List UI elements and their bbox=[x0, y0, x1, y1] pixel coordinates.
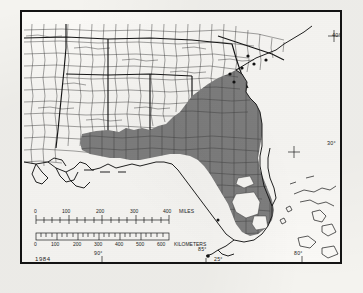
longitude-label-80: 80° bbox=[294, 250, 303, 256]
latitude-label-30: 30° bbox=[327, 140, 336, 146]
map-plate: 40° 30° 90° 85° 80° 25° 0 100 200 300 40… bbox=[22, 12, 340, 262]
scale-miles-graphic bbox=[35, 215, 195, 224]
map-frame: 40° 30° 90° 85° 80° 25° 0 100 200 300 40… bbox=[20, 10, 342, 264]
scale-kilometers-graphic bbox=[35, 232, 195, 241]
island-outlines bbox=[280, 176, 338, 258]
paper-background: 40° 30° 90° 85° 80° 25° 0 100 200 300 40… bbox=[0, 0, 363, 293]
latitude-label-25: 25° bbox=[214, 256, 223, 262]
map-drawing bbox=[22, 12, 340, 262]
shaded-distribution-area bbox=[22, 12, 340, 262]
scale-bar-miles: 0 100 200 300 400 MILES bbox=[34, 208, 194, 222]
latitude-label-40: 40° bbox=[332, 32, 340, 38]
longitude-label-90: 90° bbox=[94, 250, 103, 256]
scale-bar-kilometers: 0 100 200 300 400 500 600 KILOMETERS bbox=[34, 232, 194, 246]
year-label: 1984 bbox=[35, 256, 51, 262]
